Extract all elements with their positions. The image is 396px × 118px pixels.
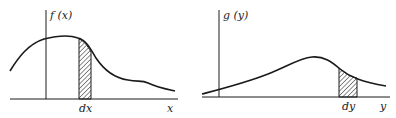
right-shaded-area bbox=[339, 68, 357, 97]
left-shaded-label: dx bbox=[79, 103, 92, 114]
right-panel bbox=[202, 10, 390, 97]
right-curve-gy bbox=[202, 57, 386, 94]
left-y-axis-label: f (x) bbox=[50, 10, 72, 21]
right-x-axis-label: y bbox=[380, 101, 386, 112]
left-curve-fx bbox=[10, 36, 175, 91]
left-x-axis-label: x bbox=[167, 103, 173, 114]
right-shaded-label: dy bbox=[342, 101, 355, 112]
left-panel bbox=[10, 10, 178, 99]
right-y-axis-label: g (y) bbox=[223, 10, 248, 21]
